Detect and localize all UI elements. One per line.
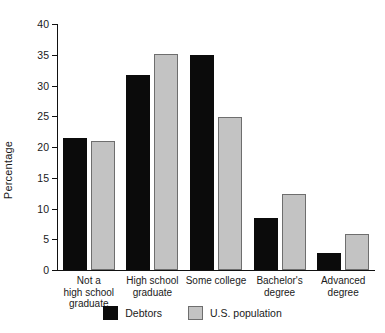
bar-us-population [282,194,306,270]
bar-chart-figure: Percentage 0510152025303540 Not ahigh sc… [0,0,385,333]
legend-label: Debtors [125,307,162,319]
x-axis-label: Advanceddegree [303,275,383,298]
x-axis-label-line: graduate [113,287,193,299]
bar-debtors [126,75,150,270]
y-tick-mark [52,270,57,271]
bar-group [184,24,248,270]
bar-us-population [218,117,242,270]
bar-group [311,24,375,270]
x-axis-label-line: degree [303,287,383,299]
gray-square-swatch [188,306,203,320]
bar-us-population [91,141,115,270]
y-axis-title: Percentage [2,110,18,230]
bar-debtors [190,55,214,270]
y-tick-label: 35 [37,49,49,61]
y-tick-label: 5 [43,233,49,245]
chart-legend: DebtorsU.S. population [0,306,385,320]
legend-entry[interactable]: Debtors [103,306,162,320]
x-axis-label-line: Advanced [303,275,383,287]
bar-group [121,24,185,270]
y-tick-label: 30 [37,80,49,92]
black-square-swatch [103,306,118,320]
y-tick-label: 20 [37,141,49,153]
y-tick-label: 40 [37,18,49,30]
bar-us-population [154,54,178,270]
legend-entry[interactable]: U.S. population [188,306,282,320]
x-axis-line [57,270,375,271]
bar-debtors [317,253,341,270]
plot-area: 0510152025303540 [57,24,375,270]
bar-group [248,24,312,270]
bar-us-population [345,234,369,270]
bar-debtors [254,218,278,270]
bar-group [57,24,121,270]
legend-label: U.S. population [210,307,282,319]
y-tick-label: 15 [37,172,49,184]
y-tick-label: 10 [37,203,49,215]
y-tick-label: 25 [37,110,49,122]
bar-debtors [63,138,87,270]
